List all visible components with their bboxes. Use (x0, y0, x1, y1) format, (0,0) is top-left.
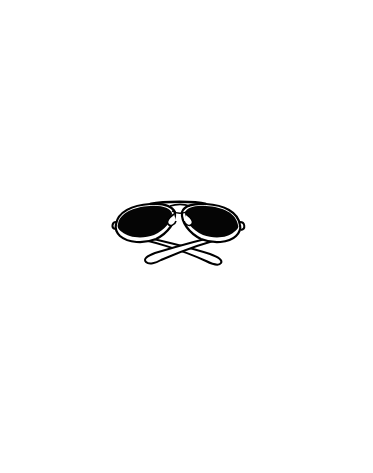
nose-pads (167, 214, 192, 225)
left-lens (112, 204, 175, 242)
sunglasses-illustration (0, 0, 373, 473)
image-canvas: aviator sunglasses with crossed temples (0, 0, 373, 473)
